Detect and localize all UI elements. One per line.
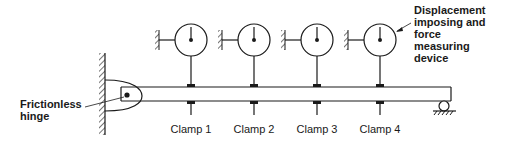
device-label-line-1: Displacement bbox=[414, 4, 486, 16]
clamp-3-label: Clamp 3 bbox=[297, 123, 338, 135]
clamp-1-label: Clamp 1 bbox=[171, 123, 212, 135]
arrowhead-icon bbox=[396, 27, 403, 32]
left-wall bbox=[99, 53, 105, 135]
hinge-pin-icon bbox=[124, 92, 129, 97]
device-label-line-4: measuring bbox=[414, 40, 470, 52]
beam-diagram: Frictionless hinge Displacement imposing… bbox=[0, 0, 506, 150]
device-label-line-2: imposing and bbox=[414, 16, 486, 28]
clamp-4-label: Clamp 4 bbox=[360, 123, 401, 135]
device-label-line-5: device bbox=[414, 52, 448, 64]
device-label-line-3: force bbox=[414, 28, 441, 40]
hinge-label-line-1: Frictionless bbox=[20, 98, 82, 110]
beam bbox=[121, 87, 451, 101]
roller-support bbox=[433, 101, 456, 115]
clamp-2-label: Clamp 2 bbox=[234, 123, 275, 135]
hinge-label-line-2: hinge bbox=[20, 110, 49, 122]
hinge-housing bbox=[105, 80, 142, 111]
